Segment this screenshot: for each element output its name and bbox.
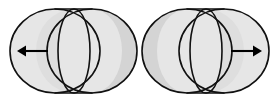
figure-canvas xyxy=(0,0,279,101)
left-cylinder-figure xyxy=(10,9,137,93)
right-cylinder-figure xyxy=(142,9,269,93)
